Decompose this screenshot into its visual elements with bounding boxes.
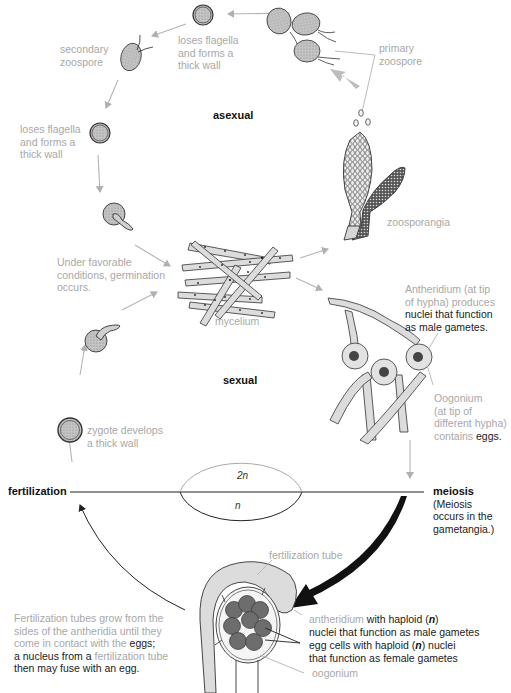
text-line: zoospore xyxy=(379,55,422,68)
ploidy-diploid: 2n xyxy=(237,470,248,481)
encysted-spore-left xyxy=(90,123,110,143)
text-line: (at tip of xyxy=(434,405,507,418)
germinating-spore-upper xyxy=(103,203,133,230)
event-meiosis: meiosis (Meiosis occurs in the gametangi… xyxy=(433,485,494,535)
text-line: ) xyxy=(435,613,439,625)
meiosis-arrow xyxy=(303,496,407,600)
text-eggs: eggs; xyxy=(130,637,156,649)
label-loses-flagella-left: loses flagella and forms a thick wall xyxy=(20,123,81,161)
text-line: sides of the antheridia until they xyxy=(14,625,168,638)
meiosis-note-line: occurs in the xyxy=(433,510,494,523)
text-line: secondary xyxy=(60,43,108,56)
text-line: loses flagella xyxy=(178,34,239,47)
text-eggs: eggs. xyxy=(476,430,502,442)
text-line: of hypha) produces xyxy=(405,296,495,309)
label-germination: Under favorable conditions, germination … xyxy=(57,256,165,294)
text-line: Oogonium xyxy=(434,392,507,405)
haploid-half xyxy=(180,492,302,521)
text-line: occurs. xyxy=(57,281,165,294)
event-fertilization: fertilization xyxy=(8,485,67,498)
encysted-spore-top xyxy=(193,5,213,25)
text-line: Antheridium (at tip xyxy=(405,283,495,296)
text-line: nuclei that function xyxy=(405,308,495,321)
meiosis-note-line: (Meiosis xyxy=(433,498,494,511)
text-line: a thick wall xyxy=(87,437,163,450)
text-line: a nucleus from a xyxy=(14,650,95,662)
zygote xyxy=(58,418,82,442)
text-line: Under favorable xyxy=(57,256,165,269)
text-line: thick wall xyxy=(20,148,81,161)
text-line: that function as female gametes xyxy=(309,652,458,665)
germinating-spore-lower xyxy=(85,325,120,352)
life-cycle-diagram xyxy=(0,0,511,693)
text-line: ) nuclei xyxy=(422,639,456,651)
text-line: different hypha) xyxy=(434,417,507,430)
label-oogonium-top: Oogonium (at tip of different hypha) con… xyxy=(434,392,507,442)
label-primary-zoospore: primary zoospore xyxy=(379,42,422,67)
text-line: zygote develops xyxy=(87,424,163,437)
label-oogonium-bottom: oogonium xyxy=(312,667,358,680)
label-antheridium-bottom: antheridium with haploid (n) nuclei that… xyxy=(309,613,479,638)
mycelium xyxy=(178,241,293,326)
label-egg-cells: egg cells with haploid (n) nuclei that f… xyxy=(309,639,458,664)
text-line: and forms a xyxy=(178,47,239,60)
primary-zoospores xyxy=(264,5,340,65)
ploidy-haploid: n xyxy=(235,500,241,511)
cycle-arrows xyxy=(68,13,410,478)
text-line: thick wall xyxy=(178,59,239,72)
meiosis-title: meiosis xyxy=(433,485,494,498)
text-line: then may fuse with an egg. xyxy=(14,662,168,675)
text-line: egg cells with haploid ( xyxy=(309,639,415,651)
text-line: contains xyxy=(434,430,476,442)
text-fertilization-tube: fertilization tube xyxy=(95,650,169,662)
text-line: with haploid ( xyxy=(364,613,429,625)
text-line: loses flagella xyxy=(20,123,81,136)
text-antheridium: antheridium xyxy=(309,613,364,625)
label-zygote: zygote develops a thick wall xyxy=(87,424,163,449)
phase-label-sexual: sexual xyxy=(223,374,257,387)
label-mycelium: mycelium xyxy=(215,315,259,328)
label-secondary-zoospore: secondary zoospore xyxy=(60,43,108,68)
text-line: come in contact with the xyxy=(14,637,130,649)
text-line: Fertilization tubes grow from the xyxy=(14,612,168,625)
label-fertilization-tube: fertilization tube xyxy=(269,549,343,562)
label-fertilization-tubes: Fertilization tubes grow from the sides … xyxy=(14,612,168,675)
fertilization-arrow xyxy=(80,505,185,610)
text-line: as male gametes. xyxy=(405,321,495,334)
text-line: primary xyxy=(379,42,422,55)
release-arrow xyxy=(330,69,360,89)
label-antheridium-top: Antheridium (at tip of hypha) produces n… xyxy=(405,283,495,333)
phase-label-asexual: asexual xyxy=(213,109,253,122)
text-line: conditions, germination xyxy=(57,269,165,282)
released-spores xyxy=(354,110,371,127)
text-line: and forms a xyxy=(20,136,81,149)
meiosis-note-line: gametangia.) xyxy=(433,523,494,536)
label-loses-flagella-top: loses flagella and forms a thick wall xyxy=(178,34,239,72)
secondary-zoospore xyxy=(118,35,153,73)
label-zoosporangia: zoosporangia xyxy=(387,216,450,229)
text-line: zoospore xyxy=(60,56,108,69)
text-line: nuclei that function as male gametes xyxy=(309,626,479,639)
fertilization-closeup xyxy=(200,562,297,693)
